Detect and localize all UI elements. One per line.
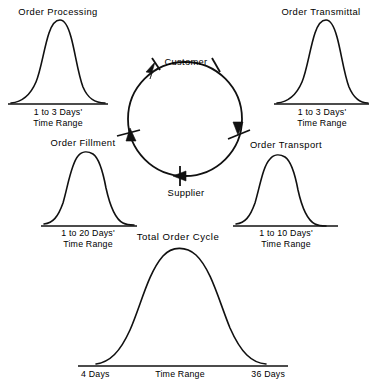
cycle-circle bbox=[128, 62, 242, 176]
cycle-arrowhead-left bbox=[126, 128, 136, 141]
order-processing-title: Order Processing bbox=[18, 6, 97, 17]
order-transmittal-title: Order Transmittal bbox=[281, 6, 360, 17]
order-processing-axis-label: Time Range bbox=[33, 118, 83, 128]
order-transport-title: Order Transport bbox=[250, 139, 322, 150]
order-fillment-axis-label: Time Range bbox=[63, 239, 113, 249]
order-transmittal-curve bbox=[277, 20, 368, 103]
panel-order-transmittal: Order Transmittal 1 to 3 Days' Time Rang… bbox=[274, 6, 369, 128]
order-transmittal-axis-label: Time Range bbox=[297, 118, 347, 128]
order-processing-curve bbox=[11, 20, 105, 103]
order-transmittal-range-label: 1 to 3 Days' bbox=[298, 107, 347, 117]
order-transport-curve bbox=[236, 155, 326, 226]
total-order-cycle-curve bbox=[96, 248, 266, 364]
panel-order-processing: Order Processing 1 to 3 Days' Time Range bbox=[8, 6, 108, 128]
total-order-cycle-min-label: 4 Days bbox=[81, 369, 110, 379]
panel-order-fillment: Order Fillment 1 to 20 Days' Time Range bbox=[41, 137, 137, 249]
order-cycle-diagram: Order Processing 1 to 3 Days' Time Range… bbox=[0, 0, 371, 383]
order-cycle-loop: Customer Supplier bbox=[117, 56, 250, 198]
order-fillment-curve bbox=[44, 152, 134, 225]
total-order-cycle-max-label: 36 Days bbox=[251, 369, 285, 379]
cycle-node-customer: Customer bbox=[164, 56, 207, 67]
total-order-cycle-title: Total Order Cycle bbox=[137, 231, 220, 242]
panel-order-transport: Order Transport 1 to 10 Days' Time Range bbox=[233, 139, 338, 249]
order-fillment-range-label: 1 to 20 Days' bbox=[61, 228, 115, 238]
order-fillment-title: Order Fillment bbox=[51, 137, 116, 148]
panel-total-order-cycle: Total Order Cycle 4 Days Time Range 36 D… bbox=[78, 231, 288, 379]
order-processing-range-label: 1 to 3 Days' bbox=[34, 107, 83, 117]
diagram-canvas: Order Processing 1 to 3 Days' Time Range… bbox=[0, 0, 371, 383]
total-order-cycle-axis-label: Time Range bbox=[155, 369, 205, 379]
order-transport-axis-label: Time Range bbox=[261, 239, 311, 249]
cycle-node-supplier: Supplier bbox=[168, 187, 205, 198]
order-transport-range-label: 1 to 10 Days' bbox=[259, 228, 313, 238]
